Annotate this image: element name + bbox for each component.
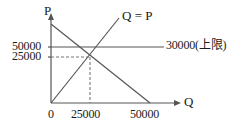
x-axis-tick-50000: 50000 [130, 108, 159, 120]
economics-supply-demand-diagram: P Q 50000 25000 0 25000 50000 Q = P 3000… [0, 0, 242, 129]
y-axis-tick-25000: 25000 [12, 50, 41, 62]
x-axis-tick-25000: 25000 [71, 108, 100, 120]
supply-curve-q-equals-p [51, 18, 119, 103]
price-cap-label: 30000(上限) [166, 39, 226, 51]
diagram-canvas [0, 0, 242, 129]
demand-curve [51, 24, 150, 103]
x-axis-label: Q [184, 95, 193, 108]
x-axis-tick-origin: 0 [48, 108, 54, 120]
supply-curve-label: Q = P [122, 9, 152, 22]
y-axis-label: P [44, 4, 51, 17]
x-axis-arrowhead [174, 100, 181, 106]
